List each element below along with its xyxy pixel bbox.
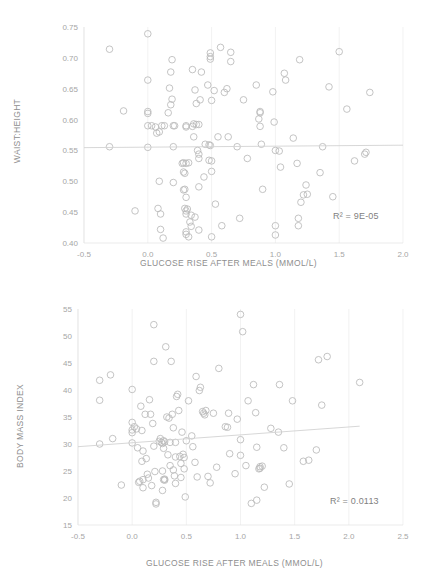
y-axis-tick-label: 0.45 xyxy=(62,208,78,217)
scatter-point xyxy=(193,373,200,380)
scatter-point xyxy=(298,199,305,206)
scatter-point xyxy=(190,443,197,450)
scatter-point xyxy=(132,208,139,215)
scatter-point xyxy=(120,108,127,115)
scatter-point xyxy=(324,353,331,360)
scatter-point xyxy=(172,480,179,487)
chart-body-mass-index-y-axis-title: BODY MASS INDEX xyxy=(15,366,25,486)
scatter-point xyxy=(276,381,283,388)
scatter-point xyxy=(159,487,166,494)
scatter-point xyxy=(212,201,219,208)
scatter-point xyxy=(178,474,185,481)
scatter-point xyxy=(367,89,374,96)
scatter-point xyxy=(192,459,199,466)
scatter-point xyxy=(152,468,159,475)
scatter-point xyxy=(157,211,164,218)
scatter-point xyxy=(183,194,190,201)
scatter-point xyxy=(138,403,145,410)
scatter-point xyxy=(196,227,203,234)
scatter-point xyxy=(236,215,243,222)
scatter-point xyxy=(170,467,177,474)
y-axis-tick-label: 0.50 xyxy=(62,177,78,186)
scatter-point xyxy=(189,66,196,73)
scatter-point xyxy=(160,235,167,242)
scatter-point xyxy=(190,134,197,141)
x-axis-tick-label: 1.0 xyxy=(235,532,247,541)
scatter-plot-figure: 0.400.450.500.550.600.650.700.75-0.50.00… xyxy=(0,0,433,586)
scatter-point xyxy=(207,480,214,487)
x-axis-tick-label: 2.5 xyxy=(397,532,409,541)
scatter-point xyxy=(290,135,297,142)
scatter-point xyxy=(227,49,234,56)
scatter-point xyxy=(234,416,241,423)
scatter-point xyxy=(294,160,301,167)
scatter-point xyxy=(156,178,163,185)
chart-waist-height: 0.400.450.500.550.600.650.700.75-0.50.00… xyxy=(0,0,433,293)
y-axis-tick-label: 25 xyxy=(63,467,72,476)
scatter-point xyxy=(225,134,232,141)
scatter-point xyxy=(213,464,220,471)
y-axis-tick-label: 40 xyxy=(63,386,72,395)
scatter-point xyxy=(351,158,358,165)
scatter-point xyxy=(96,441,103,448)
scatter-point xyxy=(232,470,239,477)
scatter-point xyxy=(148,122,155,129)
x-axis-tick-label: 1.5 xyxy=(289,532,301,541)
scatter-point xyxy=(318,402,325,409)
x-axis-tick-label: 0.5 xyxy=(181,532,193,541)
scatter-point xyxy=(313,447,320,454)
scatter-point xyxy=(192,87,199,94)
scatter-point xyxy=(182,494,189,501)
scatter-point xyxy=(106,143,113,150)
scatter-point xyxy=(282,77,289,84)
scatter-point xyxy=(151,321,158,328)
scatter-point xyxy=(244,155,251,162)
scatter-point xyxy=(182,170,189,177)
scatter-point xyxy=(196,155,203,162)
scatter-point xyxy=(149,420,156,427)
scatter-point xyxy=(162,344,169,351)
scatter-point xyxy=(253,444,260,451)
y-axis-tick-label: 0.60 xyxy=(62,116,78,125)
scatter-point xyxy=(261,484,268,491)
scatter-point xyxy=(344,106,351,113)
scatter-point xyxy=(194,147,201,154)
scatter-point xyxy=(281,70,288,77)
scatter-point xyxy=(216,365,223,372)
scatter-point xyxy=(227,58,234,65)
scatter-point xyxy=(219,222,226,229)
scatter-point xyxy=(196,184,203,191)
scatter-point xyxy=(243,462,250,469)
scatter-point xyxy=(166,85,173,92)
y-axis-tick-label: 20 xyxy=(63,494,72,503)
scatter-point xyxy=(179,429,186,436)
x-axis-tick-label: -0.5 xyxy=(71,532,85,541)
scatter-point xyxy=(277,164,284,171)
scatter-point xyxy=(170,425,177,432)
y-axis-tick-label: 0.65 xyxy=(62,85,78,94)
scatter-point xyxy=(171,473,178,480)
y-axis-tick-label: 0.75 xyxy=(62,23,78,32)
scatter-point xyxy=(170,179,177,186)
scatter-point xyxy=(188,223,195,230)
scatter-point xyxy=(192,214,199,221)
y-axis-tick-label: 55 xyxy=(63,305,72,314)
scatter-point xyxy=(167,69,174,76)
scatter-point xyxy=(160,445,167,452)
scatter-point xyxy=(148,482,155,489)
scatter-point xyxy=(286,481,293,488)
y-axis-tick-label: 35 xyxy=(63,413,72,422)
y-axis-tick-label: 30 xyxy=(63,440,72,449)
scatter-point xyxy=(245,398,252,405)
scatter-point xyxy=(250,381,257,388)
scatter-point xyxy=(268,425,275,432)
scatter-point xyxy=(96,397,103,404)
chart-body-mass-index-canvas: 152025303540455055-0.50.00.51.01.52.02.5 xyxy=(0,293,433,586)
scatter-point xyxy=(303,182,310,189)
y-axis-tick-label: 15 xyxy=(63,521,72,530)
scatter-point xyxy=(146,396,153,403)
scatter-point xyxy=(256,116,263,123)
scatter-point xyxy=(240,97,247,104)
scatter-point xyxy=(225,410,232,417)
chart-waist-height-r-squared-annotation: R² = 9E-05 xyxy=(333,211,379,221)
